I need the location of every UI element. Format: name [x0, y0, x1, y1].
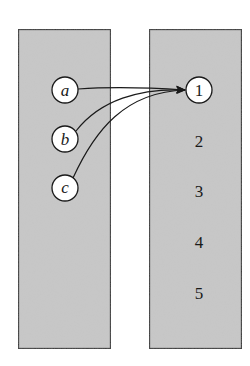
- mapping-diagram: a b c 1 2 3 4 5: [0, 0, 250, 366]
- element-label: b: [61, 130, 70, 149]
- domain-element-c: c: [52, 175, 78, 201]
- codomain-element-1: 1: [186, 77, 212, 103]
- codomain-element-4: 4: [195, 233, 204, 252]
- codomain-element-5: 5: [195, 284, 204, 303]
- codomain-element-3: 3: [195, 182, 204, 201]
- domain-element-a: a: [52, 77, 78, 103]
- domain-element-b: b: [52, 126, 78, 152]
- codomain-element-2: 2: [195, 132, 204, 151]
- element-label: c: [61, 178, 69, 197]
- element-label: a: [61, 81, 70, 100]
- element-label: 1: [195, 81, 204, 100]
